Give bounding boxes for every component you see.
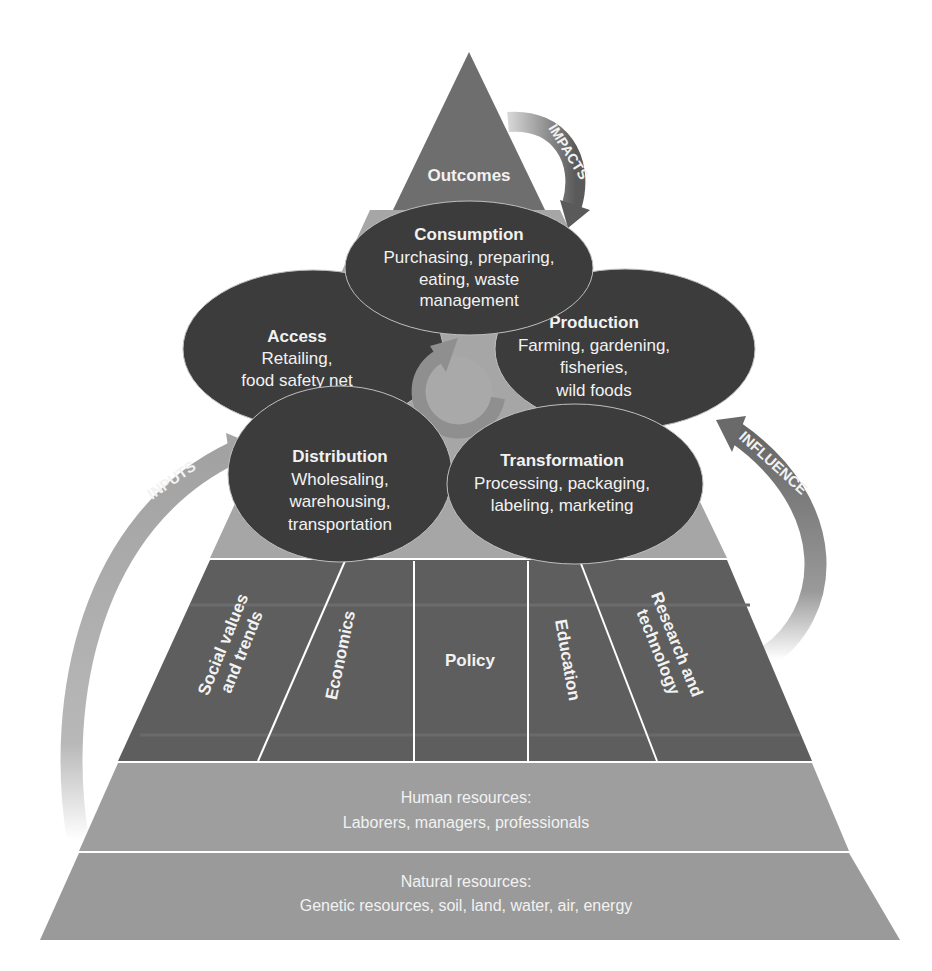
human-resources-detail: Laborers, managers, professionals bbox=[343, 814, 589, 831]
svg-text:Production: Production bbox=[549, 313, 639, 332]
driver-policy: Policy bbox=[445, 651, 496, 670]
svg-text:Retailing,: Retailing, bbox=[262, 349, 333, 368]
natural-resources-title: Natural resources: bbox=[401, 873, 532, 890]
svg-text:Distribution: Distribution bbox=[292, 447, 387, 466]
svg-text:Consumption: Consumption bbox=[414, 225, 524, 244]
svg-text:warehousing,: warehousing, bbox=[288, 492, 390, 511]
svg-text:labeling, marketing: labeling, marketing bbox=[491, 496, 634, 515]
distribution-ellipse: Distribution Wholesaling, warehousing, t… bbox=[228, 386, 452, 562]
drivers-tier: Social values and trends Economics Polic… bbox=[118, 560, 812, 761]
svg-text:Wholesaling,: Wholesaling, bbox=[291, 470, 388, 489]
outcomes-label: Outcomes bbox=[427, 166, 510, 185]
human-resources-title: Human resources: bbox=[401, 789, 532, 806]
influence-label: INFLUENCE bbox=[736, 428, 811, 498]
svg-text:Processing, packaging,: Processing, packaging, bbox=[474, 474, 650, 493]
svg-text:eating, waste: eating, waste bbox=[419, 270, 519, 289]
transformation-ellipse: Transformation Processing, packaging, la… bbox=[447, 404, 703, 564]
svg-text:Access: Access bbox=[267, 327, 327, 346]
consumption-ellipse: Consumption Purchasing, preparing, eatin… bbox=[345, 201, 593, 335]
svg-text:Farming, gardening,: Farming, gardening, bbox=[518, 336, 670, 355]
human-resources-tier: Human resources: Laborers, managers, pro… bbox=[79, 763, 849, 851]
natural-resources-tier: Natural resources: Genetic resources, so… bbox=[40, 853, 900, 940]
svg-text:fisheries,: fisheries, bbox=[560, 358, 628, 377]
food-system-pyramid-diagram: INPUTS INFLUENCE Natural resources: Gene… bbox=[0, 0, 932, 971]
svg-text:Purchasing, preparing,: Purchasing, preparing, bbox=[383, 248, 554, 267]
svg-text:wild foods: wild foods bbox=[555, 381, 632, 400]
natural-resources-detail: Genetic resources, soil, land, water, ai… bbox=[300, 897, 633, 914]
svg-text:transportation: transportation bbox=[288, 515, 392, 534]
svg-text:Transformation: Transformation bbox=[500, 451, 624, 470]
svg-text:management: management bbox=[419, 291, 519, 310]
